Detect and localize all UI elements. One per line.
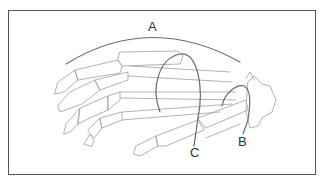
label-b: B: [238, 135, 247, 148]
label-a: A: [148, 20, 157, 33]
label-c: C: [190, 146, 199, 159]
arch-a: [66, 37, 240, 64]
hand-skeleton-diagram: [0, 0, 320, 181]
arch-b: [222, 86, 250, 134]
